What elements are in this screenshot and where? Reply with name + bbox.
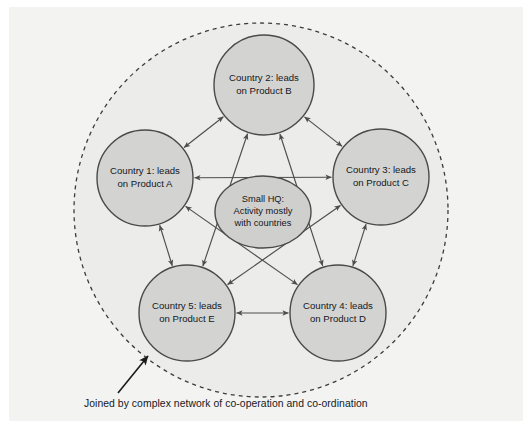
node-country-1-label-line2: on Product A — [118, 178, 174, 189]
node-country-1-label-line1: Country 1: leads — [110, 165, 180, 176]
small-hq-label-line3: with countries — [234, 218, 292, 228]
small-hq-label-line1: Small HQ: — [242, 194, 284, 204]
node-country-4-label-line1: Country 4: leads — [303, 300, 373, 311]
small-hq-label-line2: Activity mostly — [234, 206, 293, 216]
node-country-4-label-line2: on Product D — [310, 313, 366, 324]
caption-pointer-arrow — [118, 356, 148, 393]
network-organisation-figure: Country 1: leadson Product ACountry 2: l… — [0, 0, 532, 445]
node-country-3[interactable]: Country 3: leadson Product C — [333, 129, 429, 225]
diagram-canvas: Country 1: leadson Product ACountry 2: l… — [0, 0, 532, 445]
node-country-2-label-line2: on Product B — [236, 85, 291, 96]
node-country-5-label-line1: Country 5: leads — [152, 300, 222, 311]
figure-caption: Joined by complex network of co-operatio… — [84, 398, 368, 409]
headquarters-node-group: Small HQ: Activity mostly with countries — [215, 176, 311, 248]
node-country-1[interactable]: Country 1: leadson Product A — [97, 130, 193, 226]
node-country-4[interactable]: Country 4: leadson Product D — [290, 265, 386, 361]
node-country-5-label-line2: on Product E — [159, 313, 214, 324]
node-country-3-label-line1: Country 3: leads — [346, 164, 416, 175]
node-country-5[interactable]: Country 5: leadson Product E — [139, 265, 235, 361]
node-country-2[interactable]: Country 2: leadson Product B — [214, 35, 314, 135]
node-country-2-label-line1: Country 2: leads — [229, 72, 299, 83]
node-country-3-label-line2: on Product C — [353, 177, 409, 188]
